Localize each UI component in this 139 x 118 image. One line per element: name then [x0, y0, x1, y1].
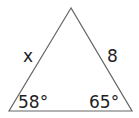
side-label-right: 8 [107, 46, 118, 66]
angle-label-bottom-left: 58° [18, 92, 48, 112]
triangle-diagram: x 8 58° 65° [0, 0, 139, 118]
side-label-left: x [23, 46, 33, 66]
angle-label-bottom-right: 65° [89, 92, 119, 112]
